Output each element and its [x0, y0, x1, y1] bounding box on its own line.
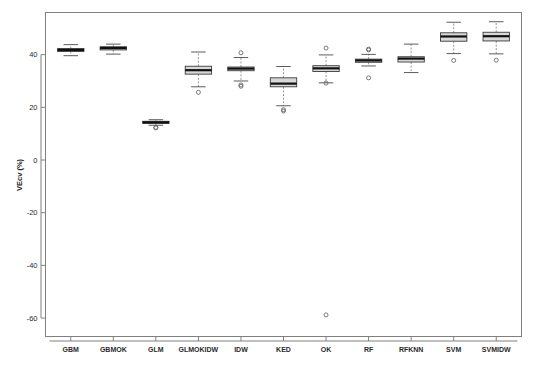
outlier-point	[494, 58, 498, 62]
x-tick-label: GLMOKIDW	[179, 346, 219, 353]
x-tick-label: GBMOK	[100, 346, 127, 353]
box-group-svmidw	[483, 22, 509, 62]
y-axis-title: VEcv (%)	[15, 158, 24, 191]
y-tick-label: -20	[27, 208, 38, 217]
outlier-point	[196, 90, 200, 94]
x-tick-label: GBM	[63, 346, 80, 353]
y-tick-label: 40	[29, 50, 37, 59]
box-group-svm	[440, 22, 466, 62]
x-axis: GBMGBMOKGLMGLMOKIDWIDWKEDOKRFRFKNNSVMSVM…	[50, 337, 518, 354]
x-tick-label: SVM	[446, 346, 461, 353]
boxplot-canvas: 40200-20-40-60 GBMGBMOKGLMGLMOKIDWIDWKED…	[0, 0, 533, 366]
box-iqr	[270, 78, 296, 87]
x-tick-label: RF	[364, 346, 374, 353]
box-group-ked	[270, 67, 296, 114]
outlier-point	[452, 58, 456, 62]
y-tick-label: -40	[27, 261, 38, 270]
outlier-point	[324, 46, 328, 50]
x-tick-label: IDW	[234, 346, 248, 353]
y-tick-label: 0	[33, 156, 37, 165]
box-series	[58, 22, 510, 317]
box-group-glmokidw	[185, 52, 211, 94]
x-tick-label: KED	[276, 346, 291, 353]
box-group-ok	[313, 46, 339, 317]
outlier-point	[239, 51, 243, 55]
x-tick-label: SVMIDW	[482, 346, 511, 353]
y-tick-label: -60	[27, 314, 38, 323]
box-group-rf	[355, 47, 381, 80]
box-group-idw	[228, 51, 254, 88]
box-group-rfknn	[398, 44, 424, 72]
y-axis: 40200-20-40-60	[27, 50, 46, 322]
x-tick-label: OK	[321, 346, 332, 353]
box-group-gbmok	[100, 44, 126, 54]
outlier-point	[324, 313, 328, 317]
outlier-point	[367, 76, 371, 80]
box-group-gbm	[58, 45, 84, 56]
y-tick-label: 20	[29, 103, 37, 112]
plot-frame	[46, 13, 522, 337]
x-tick-label: GLM	[148, 346, 164, 353]
box-group-glm	[143, 120, 169, 130]
boxplot-figure: 40200-20-40-60 GBMGBMOKGLMGLMOKIDWIDWKED…	[0, 0, 533, 366]
x-tick-label: RFKNN	[399, 346, 424, 353]
